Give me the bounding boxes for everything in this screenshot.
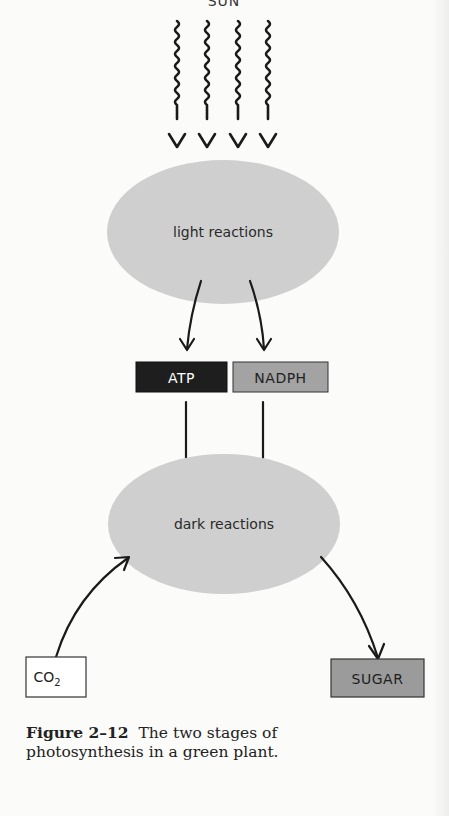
atp-box: ATP [136,362,227,392]
atp-label: ATP [168,370,195,386]
photosynthesis-diagram: SUN light reactions [0,0,449,816]
figure-caption: Figure 2–12The two stages of photosynthe… [26,723,366,762]
wavy-arrow-icon [230,21,246,147]
sugar-label: SUGAR [352,671,404,687]
co2-label: CO [33,669,54,685]
co2-subscript: 2 [54,677,60,688]
arrow-dark-to-sugar [321,557,384,659]
wavy-arrow-icon [199,21,215,147]
light-reactions-label: light reactions [173,224,273,240]
nadph-box: NADPH [233,362,328,392]
sunlight-arrows [169,21,276,147]
wavy-arrow-icon [260,21,276,147]
wavy-arrow-icon [169,21,185,147]
light-reactions-node: light reactions [107,160,339,304]
dark-reactions-label: dark reactions [174,516,274,532]
nadph-label: NADPH [254,370,306,386]
sun-label: SUN [208,0,241,9]
arrow-co2-to-dark [56,557,129,657]
sugar-box: SUGAR [331,659,424,697]
caption-label: Figure 2–12 [26,723,129,742]
co2-box: CO2 [26,657,86,697]
dark-reactions-node: dark reactions [108,454,340,594]
